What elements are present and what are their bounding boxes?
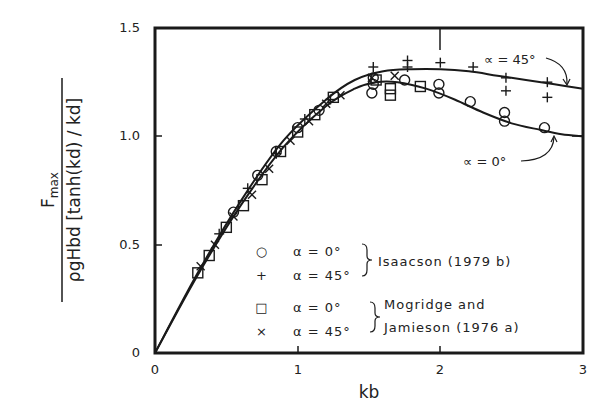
legend-marker-plus-icon: + (256, 268, 268, 283)
marker-plus-icon (403, 62, 413, 72)
y-tick-1-5: 1.5 (119, 20, 140, 35)
legend-label-isaacson-0: α = 0° (293, 244, 342, 259)
y-tick-0-5: 0.5 (119, 237, 140, 252)
annotation-alpha-45: ∝ = 45° (484, 52, 536, 67)
x-tick-1: 1 (294, 362, 302, 377)
marker-plus-icon (501, 73, 511, 83)
marker-square-icon (385, 90, 395, 100)
marker-x-icon (248, 191, 256, 199)
x-tick-2: 2 (436, 362, 444, 377)
marker-plus-icon (368, 62, 378, 72)
marker-circle-icon (465, 97, 475, 107)
legend-marker-square-icon: □ (255, 300, 268, 315)
y-axis-title: Fmax ρgHbd [tanh(kd) / kd] (38, 78, 84, 302)
x-tick-0: 0 (151, 362, 159, 377)
marker-square-icon (385, 84, 395, 94)
y-tick-0: 0 (132, 345, 140, 360)
legend-label-mogridge-0: α = 0° (293, 300, 342, 315)
annotation-alpha-0: ∝ = 0° (463, 154, 506, 169)
x-axis-title: kb (359, 382, 380, 402)
curve-alpha-45 (155, 69, 583, 353)
theory-curves (155, 69, 583, 353)
y-axis-numerator: Fmax (38, 172, 61, 208)
y-axis-denominator: ρgHbd [tanh(kd) / kd] (64, 98, 84, 282)
legend-brace-isaacson (362, 244, 372, 276)
curve-alpha-0 (155, 81, 583, 353)
legend-source-mogridge-line2: Jamieson (1976 a) (383, 320, 520, 335)
legend-label-mogridge-45: α = 45° (293, 324, 351, 339)
legend-label-isaacson-45: α = 45° (293, 268, 351, 283)
marker-plus-icon (542, 92, 552, 102)
marker-plus-icon (435, 58, 445, 68)
legend-marker-x-icon: × (256, 324, 268, 339)
legend: ○ α = 0° + α = 45° Isaacson (1979 b) □ α… (255, 244, 519, 339)
legend-source-mogridge-line1: Mogridge and (384, 297, 485, 312)
legend-source-isaacson: Isaacson (1979 b) (378, 254, 511, 269)
marker-x-icon (391, 72, 399, 80)
marker-plus-icon (542, 77, 552, 87)
chart: 0 1 2 3 0 0.5 1.0 1.5 kb Fmax ρgHbd [tan… (0, 0, 613, 419)
y-tick-1-0: 1.0 (119, 128, 140, 143)
x-tick-3: 3 (579, 362, 587, 377)
annotation-arrow-0 (521, 137, 554, 161)
legend-marker-circle-icon: ○ (256, 244, 268, 259)
legend-brace-mogridge (370, 302, 380, 332)
marker-plus-icon (501, 86, 511, 96)
